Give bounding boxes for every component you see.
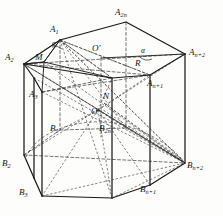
angle-label-alpha-left: α	[52, 40, 56, 48]
angle-label-alpha-right: α	[141, 47, 145, 55]
vertex-label-a1: A1	[50, 25, 59, 34]
vertex-label-b2: B2	[2, 159, 11, 168]
vertex-label-a2: A2	[5, 53, 14, 62]
geometry-svg	[0, 0, 223, 216]
bottom-face-visible	[24, 155, 185, 198]
radius-label-r: R	[135, 59, 141, 68]
vertex-label-an2: An+2	[189, 48, 205, 57]
point-label-n: N	[103, 92, 109, 101]
vertex-label-b3: B3	[19, 188, 28, 197]
vertex-label-a2n: A2n	[115, 8, 127, 17]
vertex-label-b1: B1	[50, 124, 59, 133]
segment-n-bundle	[100, 103, 185, 163]
point-label-m: M	[35, 53, 43, 62]
point-label-o: O	[91, 107, 98, 116]
vertex-label-bn2: Bn+2	[187, 161, 203, 170]
lower-right-diagonals	[42, 163, 185, 198]
vertex-label-bn1: Bn+1	[140, 185, 156, 194]
point-label-o-prime: O′	[92, 44, 101, 53]
vertex-label-an1: An+1	[147, 79, 163, 88]
geometry-figure: A1 A2n An+2 A2 A3 An+1 B1 B2n B2 B3 Bn+1…	[0, 0, 223, 216]
vertex-label-b2n: B2n	[99, 124, 111, 133]
vertex-label-a3: A3	[29, 90, 38, 99]
